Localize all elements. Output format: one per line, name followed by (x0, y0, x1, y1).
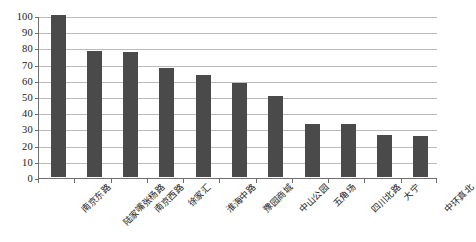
bar (232, 83, 247, 177)
y-axis-label: 10 (22, 158, 33, 169)
y-axis-label: 100 (17, 12, 33, 23)
y-axis-tick (35, 33, 39, 34)
y-axis-label: 30 (22, 125, 33, 136)
x-axis-category-label: 豫园商城 (263, 183, 295, 215)
y-axis-label: 0 (28, 174, 33, 185)
bar (123, 52, 138, 177)
x-axis-category-label: 中环真北 (444, 183, 476, 215)
y-axis-label: 40 (22, 109, 33, 120)
x-axis-labels: 南京东路陆家嘴张杨路南京西路徐家汇淮海中路豫园商城中山公园五角场四川北路大宁中环… (38, 183, 437, 241)
y-axis-tick (35, 82, 39, 83)
plot-area: 0102030405060708090100 (38, 17, 437, 179)
y-axis-tick (35, 163, 39, 164)
bar (341, 124, 356, 177)
y-axis-tick (35, 130, 39, 131)
bar (413, 136, 428, 177)
bar (51, 15, 66, 177)
x-axis-category-label: 淮海中路 (226, 183, 258, 215)
bar-series (40, 17, 437, 177)
bar (268, 96, 283, 177)
y-axis-tick (35, 66, 39, 67)
y-axis-label: 60 (22, 77, 33, 88)
bar (305, 124, 320, 177)
y-axis-label: 90 (22, 28, 33, 39)
y-axis-label: 50 (22, 93, 33, 104)
y-axis-tick (35, 17, 39, 18)
y-axis-label: 70 (22, 61, 33, 72)
x-axis-category-label: 四川北路 (371, 183, 403, 215)
x-axis-category-label: 南京东路 (81, 183, 113, 215)
y-axis-tick (35, 49, 39, 50)
bar (159, 68, 174, 177)
bar (377, 135, 392, 177)
x-axis-category-label: 徐家汇 (187, 183, 213, 209)
y-axis-tick (35, 114, 39, 115)
y-axis-label: 80 (22, 44, 33, 55)
x-axis-category-label: 大宁 (402, 183, 421, 202)
x-axis-category-label: 五角场 (332, 183, 358, 209)
y-axis-tick (35, 147, 39, 148)
y-axis-tick (35, 98, 39, 99)
bar (196, 75, 211, 177)
bar (87, 51, 102, 177)
y-axis-label: 20 (22, 142, 33, 153)
x-axis-category-label: 中山公园 (299, 183, 331, 215)
